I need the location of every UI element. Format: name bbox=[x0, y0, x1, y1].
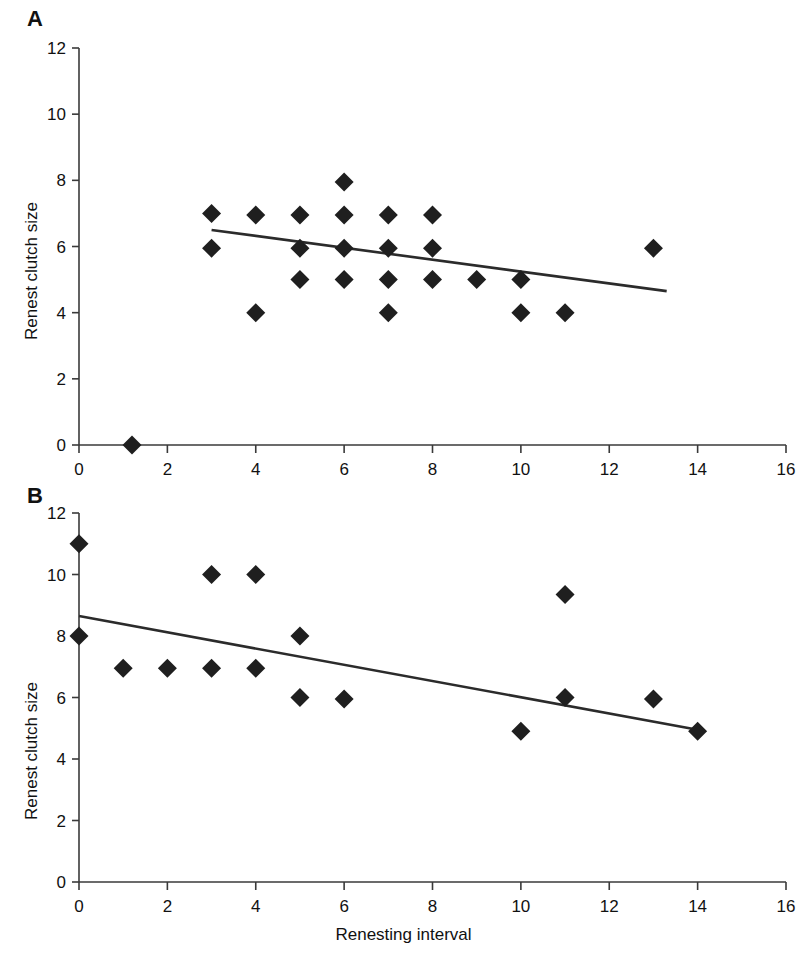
x-tick-label: 0 bbox=[74, 897, 83, 916]
x-tick-label: 14 bbox=[688, 897, 707, 916]
y-tick-label: 2 bbox=[57, 812, 66, 831]
data-point-marker bbox=[423, 239, 442, 258]
data-point-marker bbox=[379, 206, 398, 225]
x-tick-label: 10 bbox=[511, 460, 530, 479]
data-point-marker bbox=[423, 270, 442, 289]
y-tick-label: 10 bbox=[47, 566, 66, 585]
x-tick-label: 12 bbox=[600, 897, 619, 916]
x-tick-label: 2 bbox=[163, 897, 172, 916]
data-point-marker bbox=[556, 303, 575, 322]
panel-a: A Renest clutch size 0246810120246810121… bbox=[0, 0, 807, 482]
y-tick-label: 0 bbox=[57, 873, 66, 892]
data-point-marker bbox=[70, 627, 89, 646]
data-point-marker bbox=[644, 690, 663, 709]
data-point-marker bbox=[246, 303, 265, 322]
data-point-marker bbox=[114, 659, 133, 678]
y-tick-label: 0 bbox=[57, 436, 66, 455]
data-point-marker bbox=[202, 239, 221, 258]
data-point-marker bbox=[246, 206, 265, 225]
data-point-marker bbox=[511, 303, 530, 322]
data-point-marker bbox=[158, 659, 177, 678]
data-point-marker bbox=[335, 172, 354, 191]
y-tick-label: 2 bbox=[57, 370, 66, 389]
data-point-marker bbox=[335, 270, 354, 289]
x-tick-label: 4 bbox=[251, 460, 260, 479]
figure-container: A Renest clutch size 0246810120246810121… bbox=[0, 0, 807, 963]
y-tick-label: 4 bbox=[57, 750, 66, 769]
data-point-marker bbox=[688, 722, 707, 741]
data-point-marker bbox=[290, 270, 309, 289]
data-point-marker bbox=[511, 722, 530, 741]
data-point-marker bbox=[335, 239, 354, 258]
data-point-marker bbox=[379, 303, 398, 322]
y-tick-label: 6 bbox=[57, 689, 66, 708]
x-tick-label: 6 bbox=[339, 460, 348, 479]
x-tick-label: 2 bbox=[163, 460, 172, 479]
data-point-marker bbox=[423, 206, 442, 225]
data-point-marker bbox=[246, 659, 265, 678]
data-point-marker bbox=[467, 270, 486, 289]
y-tick-label: 8 bbox=[57, 171, 66, 190]
x-axis-label: Renesting interval bbox=[0, 925, 807, 945]
x-tick-label: 14 bbox=[688, 460, 707, 479]
x-tick-label: 10 bbox=[511, 897, 530, 916]
data-point-marker bbox=[644, 239, 663, 258]
data-point-marker bbox=[202, 204, 221, 223]
data-point-marker bbox=[556, 585, 575, 604]
y-tick-label: 6 bbox=[57, 238, 66, 257]
panel-b-plot: 0246810120246810121416 bbox=[0, 481, 807, 963]
data-point-marker bbox=[246, 565, 265, 584]
data-point-marker bbox=[70, 534, 89, 553]
panel-b-y-axis-label: Renest clutch size bbox=[22, 682, 42, 820]
data-point-marker bbox=[335, 690, 354, 709]
y-tick-label: 4 bbox=[57, 304, 66, 323]
x-tick-label: 8 bbox=[428, 897, 437, 916]
data-point-marker bbox=[123, 436, 142, 455]
data-point-marker bbox=[335, 206, 354, 225]
data-point-marker bbox=[290, 627, 309, 646]
data-point-marker bbox=[202, 659, 221, 678]
y-tick-label: 12 bbox=[47, 39, 66, 58]
x-tick-label: 0 bbox=[74, 460, 83, 479]
x-tick-label: 4 bbox=[251, 897, 260, 916]
x-tick-label: 12 bbox=[600, 460, 619, 479]
x-tick-label: 16 bbox=[777, 897, 796, 916]
y-tick-label: 10 bbox=[47, 105, 66, 124]
y-tick-label: 8 bbox=[57, 627, 66, 646]
x-tick-label: 8 bbox=[428, 460, 437, 479]
x-tick-label: 6 bbox=[339, 897, 348, 916]
data-point-marker bbox=[290, 688, 309, 707]
panel-a-plot: 0246810120246810121416 bbox=[0, 0, 807, 482]
panel-b: B 0246810120246810121416 bbox=[0, 481, 807, 963]
data-point-marker bbox=[202, 565, 221, 584]
data-point-marker bbox=[290, 206, 309, 225]
x-tick-label: 16 bbox=[777, 460, 796, 479]
data-point-marker bbox=[379, 270, 398, 289]
y-tick-label: 12 bbox=[47, 504, 66, 523]
